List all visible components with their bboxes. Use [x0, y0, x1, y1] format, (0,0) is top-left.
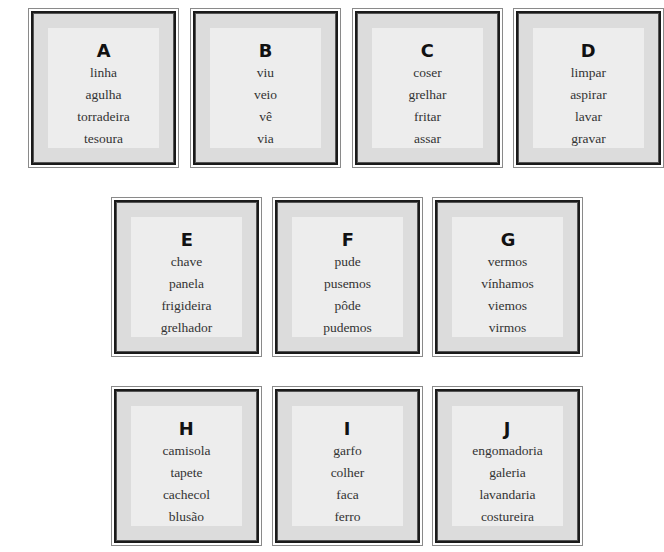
word-list: engomadoria galeria lavandaria costureir… [472, 440, 542, 528]
card-i: I garfo colher faca ferro [272, 386, 423, 546]
word: vermos [481, 251, 534, 273]
word: colher [331, 462, 365, 484]
word: fritar [408, 106, 446, 128]
card-j: J engomadoria galeria lavandaria costure… [432, 386, 583, 546]
card-frame: A linha agulha torradeira tesoura [31, 11, 176, 165]
card-letter: I [344, 420, 351, 438]
word: veio [254, 84, 277, 106]
word: lavar [570, 106, 607, 128]
word-list: viu veio vê via [254, 62, 277, 150]
word: costureira [472, 506, 542, 528]
word-list: limpar aspirar lavar gravar [570, 62, 607, 150]
card-panel: J engomadoria galeria lavandaria costure… [452, 406, 563, 526]
card-frame: J engomadoria galeria lavandaria costure… [435, 389, 580, 543]
word: via [254, 128, 277, 150]
word: viemos [481, 295, 534, 317]
card-letter: B [259, 42, 273, 60]
word: vínhamos [481, 273, 534, 295]
card-letter: C [421, 42, 434, 60]
word: pudemos [323, 317, 372, 339]
word: gravar [570, 128, 607, 150]
card-frame: F pude pusemos pôde pudemos [275, 200, 420, 354]
word: limpar [570, 62, 607, 84]
card-panel: E chave panela frigideira grelhador [131, 217, 242, 337]
card-frame: D limpar aspirar lavar gravar [516, 11, 661, 165]
word: pude [323, 251, 372, 273]
card-letter: J [504, 420, 511, 438]
card-letter: G [500, 231, 515, 249]
card-panel: D limpar aspirar lavar gravar [533, 28, 644, 148]
card-frame: I garfo colher faca ferro [275, 389, 420, 543]
card-b: B viu veio vê via [190, 8, 341, 168]
word-list: pude pusemos pôde pudemos [323, 251, 372, 339]
card-frame: G vermos vínhamos viemos virmos [435, 200, 580, 354]
word-list: vermos vínhamos viemos virmos [481, 251, 534, 339]
word: viu [254, 62, 277, 84]
word: torradeira [77, 106, 129, 128]
word: assar [408, 128, 446, 150]
word: panela [161, 273, 213, 295]
word: lavandaria [472, 484, 542, 506]
card-e: E chave panela frigideira grelhador [111, 197, 262, 357]
card-panel: A linha agulha torradeira tesoura [48, 28, 159, 148]
word-list: coser grelhar fritar assar [408, 62, 446, 150]
word: blusão [163, 506, 211, 528]
word: galeria [472, 462, 542, 484]
card-frame: E chave panela frigideira grelhador [114, 200, 259, 354]
card-letter: E [180, 231, 192, 249]
card-panel: I garfo colher faca ferro [292, 406, 403, 526]
word: coser [408, 62, 446, 84]
word: tesoura [77, 128, 129, 150]
word: virmos [481, 317, 534, 339]
card-letter: D [581, 42, 596, 60]
word: ferro [331, 506, 365, 528]
word: grelhador [161, 317, 213, 339]
word: engomadoria [472, 440, 542, 462]
card-frame: C coser grelhar fritar assar [355, 11, 500, 165]
word: chave [161, 251, 213, 273]
card-h: H camisola tapete cachecol blusão [111, 386, 262, 546]
card-panel: F pude pusemos pôde pudemos [292, 217, 403, 337]
card-letter: A [97, 42, 111, 60]
card-panel: B viu veio vê via [210, 28, 321, 148]
word: frigideira [161, 295, 213, 317]
word: aspirar [570, 84, 607, 106]
word: pusemos [323, 273, 372, 295]
card-frame: H camisola tapete cachecol blusão [114, 389, 259, 543]
card-letter: F [341, 231, 353, 249]
word: garfo [331, 440, 365, 462]
word-list: camisola tapete cachecol blusão [163, 440, 211, 528]
word: cachecol [163, 484, 211, 506]
word-list: chave panela frigideira grelhador [161, 251, 213, 339]
word: tapete [163, 462, 211, 484]
card-frame: B viu veio vê via [193, 11, 338, 165]
card-a: A linha agulha torradeira tesoura [28, 8, 179, 168]
card-d: D limpar aspirar lavar gravar [513, 8, 664, 168]
word-list: linha agulha torradeira tesoura [77, 62, 129, 150]
word: grelhar [408, 84, 446, 106]
word: pôde [323, 295, 372, 317]
card-panel: C coser grelhar fritar assar [372, 28, 483, 148]
word-list: garfo colher faca ferro [331, 440, 365, 528]
word: agulha [77, 84, 129, 106]
card-g: G vermos vínhamos viemos virmos [432, 197, 583, 357]
card-f: F pude pusemos pôde pudemos [272, 197, 423, 357]
word: vê [254, 106, 277, 128]
card-c: C coser grelhar fritar assar [352, 8, 503, 168]
card-panel: G vermos vínhamos viemos virmos [452, 217, 563, 337]
word: faca [331, 484, 365, 506]
card-letter: H [179, 420, 194, 438]
card-panel: H camisola tapete cachecol blusão [131, 406, 242, 526]
word: linha [77, 62, 129, 84]
word: camisola [163, 440, 211, 462]
